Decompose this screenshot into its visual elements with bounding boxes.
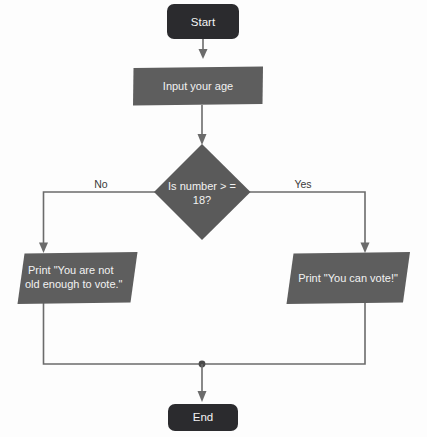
node-decision-label-line1: Is number > = <box>168 180 236 192</box>
connector-input-to-decision <box>198 105 207 145</box>
arrow-head-icon <box>39 243 48 254</box>
node-decision-shape <box>154 144 251 240</box>
node-print-not-eligible-label-line2: old enough to vote." <box>25 278 123 290</box>
node-print-eligible-label: Print "You can vote!" <box>298 272 398 284</box>
node-start[interactable]: Start <box>167 4 239 39</box>
connector-start-to-input <box>199 39 208 59</box>
node-input-your-age[interactable]: Input your age <box>133 67 263 106</box>
arrow-head-icon <box>198 391 207 402</box>
branch-label-no: No <box>94 178 108 190</box>
flowchart-svg: Start Input your age Is number > = 18? N… <box>0 0 427 437</box>
connector-merge-to-end <box>198 364 207 402</box>
connector-decision-no-branch <box>39 192 155 253</box>
flowchart-canvas: Start Input your age Is number > = 18? N… <box>0 0 427 437</box>
branch-label-yes: Yes <box>294 178 311 190</box>
node-end[interactable]: End <box>168 404 238 431</box>
connector-print-yes-to-merge <box>202 303 365 364</box>
node-print-not-eligible[interactable]: Print "You are not old enough to vote." <box>18 252 138 304</box>
connector-decision-yes-branch <box>249 192 370 253</box>
connector-print-no-to-merge <box>44 303 203 364</box>
node-start-label: Start <box>191 16 216 28</box>
node-end-label: End <box>193 411 213 423</box>
node-decision[interactable]: Is number > = 18? <box>154 144 251 240</box>
arrow-head-icon <box>199 49 208 59</box>
node-decision-label-line2: 18? <box>193 194 211 206</box>
arrow-head-icon <box>198 134 207 145</box>
node-print-eligible[interactable]: Print "You can vote!" <box>287 252 411 304</box>
arrow-head-icon <box>361 243 370 254</box>
node-input-label: Input your age <box>163 80 233 92</box>
node-print-not-eligible-label-line1: Print "You are not <box>28 264 113 276</box>
